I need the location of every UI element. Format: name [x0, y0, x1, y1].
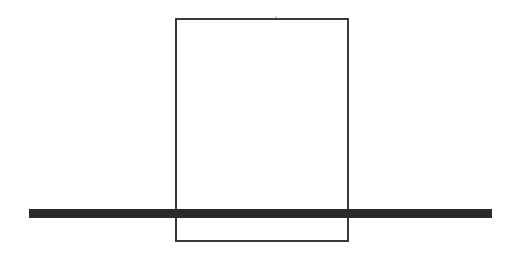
- horizontal-bar: [29, 209, 492, 218]
- artifact-dot: [275, 16, 277, 18]
